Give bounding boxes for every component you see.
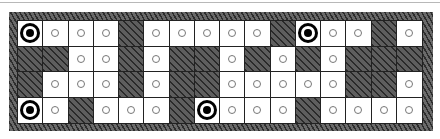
grid-cell-dot[interactable] <box>144 21 169 47</box>
grid-cell-dot[interactable] <box>321 21 346 47</box>
pellet-icon <box>51 80 59 88</box>
grid-cell-target[interactable] <box>195 98 220 124</box>
grid-cell-wall[interactable] <box>372 72 397 98</box>
pellet-icon <box>253 106 261 114</box>
grid-cell-dot[interactable] <box>69 21 94 47</box>
grid-cell-dot[interactable] <box>397 72 422 98</box>
grid-cell-target[interactable] <box>18 98 43 124</box>
pellet-icon <box>228 106 236 114</box>
grid-cell-dot[interactable] <box>170 21 195 47</box>
grid-cell-wall[interactable] <box>372 47 397 73</box>
pellet-icon <box>77 80 85 88</box>
grid-cell-dot[interactable] <box>271 98 296 124</box>
grid-cell-dot[interactable] <box>144 72 169 98</box>
grid-cell-dot[interactable] <box>220 72 245 98</box>
pellet-icon <box>152 106 160 114</box>
grid-cell-wall[interactable] <box>195 72 220 98</box>
pellet-icon <box>253 80 261 88</box>
grid-cell-wall[interactable] <box>195 47 220 73</box>
grid-cell-dot[interactable] <box>144 47 169 73</box>
pellet-icon <box>203 29 211 37</box>
grid-cell-dot[interactable] <box>94 47 119 73</box>
pellet-icon <box>178 29 186 37</box>
grid-cell-wall[interactable] <box>372 21 397 47</box>
grid-cell-dot[interactable] <box>94 72 119 98</box>
pellet-icon <box>329 29 337 37</box>
pellet-icon <box>304 80 312 88</box>
grid-cell-target[interactable] <box>296 21 321 47</box>
grid-cell-dot[interactable] <box>43 72 68 98</box>
grid-cell-dot[interactable] <box>195 21 220 47</box>
grid-cell-dot[interactable] <box>220 98 245 124</box>
grid-cell-dot[interactable] <box>346 98 371 124</box>
pellet-icon <box>77 29 85 37</box>
grid-cell-wall[interactable] <box>170 72 195 98</box>
grid-cell-wall[interactable] <box>346 72 371 98</box>
grid-cell-dot[interactable] <box>43 21 68 47</box>
pellet-icon <box>329 80 337 88</box>
pellet-icon <box>102 80 110 88</box>
grid-cell-dot[interactable] <box>397 98 422 124</box>
pellet-icon <box>228 29 236 37</box>
grid-cell-dot[interactable] <box>321 72 346 98</box>
target-icon <box>20 100 40 120</box>
grid-cell-dot[interactable] <box>220 47 245 73</box>
grid-cell-dot[interactable] <box>245 72 270 98</box>
grid-cell-dot[interactable] <box>43 98 68 124</box>
pellet-icon <box>279 106 287 114</box>
grid-cell-wall[interactable] <box>245 47 270 73</box>
grid-cell-wall[interactable] <box>170 98 195 124</box>
grid-cell-wall[interactable] <box>43 47 68 73</box>
pellet-icon <box>405 106 413 114</box>
grid-cell-dot[interactable] <box>220 21 245 47</box>
grid-cell-dot[interactable] <box>245 21 270 47</box>
grid-cell-dot[interactable] <box>271 72 296 98</box>
target-icon <box>197 100 217 120</box>
grid-cell-wall[interactable] <box>296 47 321 73</box>
grid-cell-dot[interactable] <box>346 21 371 47</box>
grid-cell-dot[interactable] <box>372 98 397 124</box>
grid-cell-wall[interactable] <box>119 47 144 73</box>
grid-cell-dot[interactable] <box>94 21 119 47</box>
pellet-icon <box>405 80 413 88</box>
grid-cell-dot[interactable] <box>94 98 119 124</box>
grid-cell-wall[interactable] <box>346 47 371 73</box>
maze-grid <box>17 20 423 124</box>
pellet-icon <box>127 106 135 114</box>
top-divider-line <box>0 2 440 3</box>
pellet-icon <box>102 29 110 37</box>
grid-cell-wall[interactable] <box>18 72 43 98</box>
grid-cell-dot[interactable] <box>144 98 169 124</box>
pellet-icon <box>329 55 337 63</box>
grid-cell-dot[interactable] <box>271 47 296 73</box>
pellet-icon <box>228 80 236 88</box>
grid-cell-wall[interactable] <box>119 72 144 98</box>
target-icon <box>298 23 318 43</box>
pellet-icon <box>354 29 362 37</box>
grid-cell-wall[interactable] <box>170 47 195 73</box>
grid-cell-dot[interactable] <box>119 98 144 124</box>
grid-cell-wall[interactable] <box>296 98 321 124</box>
pellet-icon <box>102 106 110 114</box>
grid-cell-dot[interactable] <box>397 21 422 47</box>
game-board <box>9 12 433 131</box>
grid-cell-wall[interactable] <box>69 98 94 124</box>
grid-cell-dot[interactable] <box>69 72 94 98</box>
pellet-icon <box>329 106 337 114</box>
pellet-icon <box>228 55 236 63</box>
grid-cell-dot[interactable] <box>321 98 346 124</box>
grid-cell-dot[interactable] <box>296 72 321 98</box>
pellet-icon <box>102 55 110 63</box>
grid-cell-wall[interactable] <box>18 47 43 73</box>
grid-cell-wall[interactable] <box>119 21 144 47</box>
pellet-icon <box>152 29 160 37</box>
pellet-icon <box>253 29 261 37</box>
grid-cell-target[interactable] <box>18 21 43 47</box>
grid-cell-dot[interactable] <box>69 47 94 73</box>
grid-cell-wall[interactable] <box>271 21 296 47</box>
pellet-icon <box>51 106 59 114</box>
grid-cell-dot[interactable] <box>321 47 346 73</box>
pellet-icon <box>279 55 287 63</box>
grid-cell-dot[interactable] <box>245 98 270 124</box>
grid-cell-wall[interactable] <box>397 47 422 73</box>
